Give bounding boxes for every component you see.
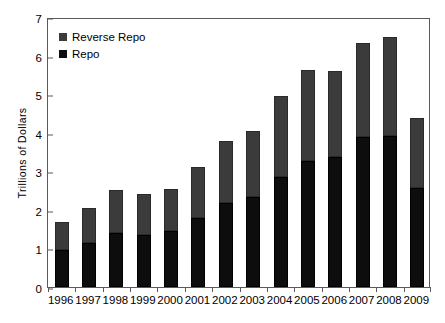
y-tick-label: 4 [36, 129, 42, 141]
bar-segment-reverse-repo [274, 96, 288, 176]
y-tick-label: 5 [36, 90, 42, 102]
bar-segment-repo [383, 136, 397, 287]
bar-segment-repo [55, 250, 69, 287]
x-tick-label: 2008 [376, 294, 402, 306]
x-tick-mark [48, 287, 49, 292]
bar-column [246, 131, 260, 287]
bar-column [219, 141, 233, 287]
x-tick-mark [322, 287, 323, 292]
bar-segment-reverse-repo [219, 141, 233, 203]
bar-segment-repo [301, 161, 315, 288]
bar-segment-repo [191, 218, 205, 287]
bar-segment-reverse-repo [137, 194, 151, 235]
x-tick-mark [103, 287, 104, 292]
legend-swatch-icon [59, 50, 67, 58]
x-tick-label: 2005 [294, 294, 320, 306]
bar-segment-reverse-repo [383, 37, 397, 136]
y-axis-title: Trillions of Dollars [14, 18, 30, 288]
bar-column [109, 190, 123, 287]
x-tick-label: 2002 [212, 294, 238, 306]
x-tick-mark [294, 287, 295, 292]
y-tick-mark [48, 134, 53, 135]
y-tick-mark [48, 211, 53, 212]
x-tick-label: 2001 [185, 294, 211, 306]
y-tick-label: 7 [36, 13, 42, 25]
x-tick-mark [185, 287, 186, 292]
bar-segment-reverse-repo [301, 70, 315, 161]
bar-segment-reverse-repo [356, 43, 370, 138]
bar-column [356, 43, 370, 287]
x-tick-label: 1999 [130, 294, 156, 306]
bar-column [82, 208, 96, 287]
bar-segment-repo [356, 137, 370, 287]
chart-legend: Reverse RepoRepo [59, 29, 146, 63]
bar-column [410, 118, 424, 287]
bar-segment-repo [109, 233, 123, 287]
legend-item: Repo [59, 46, 146, 61]
bar-column [274, 96, 288, 287]
bar-column [55, 222, 69, 287]
x-tick-mark [349, 287, 350, 292]
x-tick-mark [240, 287, 241, 292]
bar-segment-reverse-repo [82, 208, 96, 242]
legend-swatch-icon [59, 33, 67, 41]
y-tick-label: 6 [36, 52, 42, 64]
legend-item: Reverse Repo [59, 29, 146, 44]
x-tick-mark [267, 287, 268, 292]
y-tick-mark [48, 173, 53, 174]
y-tick-label: 1 [36, 244, 42, 256]
bar-segment-repo [274, 177, 288, 287]
bar-column [383, 37, 397, 287]
x-tick-mark [75, 287, 76, 292]
y-tick-label: 0 [36, 283, 42, 295]
x-tick-label: 1996 [48, 294, 74, 306]
y-tick-label: 3 [36, 167, 42, 179]
x-tick-label: 2003 [239, 294, 265, 306]
bar-segment-repo [82, 243, 96, 287]
bar-segment-reverse-repo [328, 71, 342, 157]
x-tick-mark [157, 287, 158, 292]
y-tick-mark [48, 57, 53, 58]
x-tick-label: 2007 [349, 294, 375, 306]
y-tick-label: 2 [36, 206, 42, 218]
bar-column [301, 70, 315, 287]
bar-segment-reverse-repo [55, 222, 69, 249]
bar-column [328, 71, 342, 287]
chart-figure: Trillions of Dollars 01234567 1996199719… [0, 0, 445, 323]
bar-segment-reverse-repo [164, 189, 178, 231]
bar-column [164, 189, 178, 287]
y-tick-mark [48, 250, 53, 251]
bar-segment-reverse-repo [191, 167, 205, 218]
bar-segment-repo [246, 197, 260, 287]
x-tick-label: 1998 [103, 294, 129, 306]
y-tick-mark [48, 19, 53, 20]
bar-segment-repo [137, 235, 151, 287]
bar-segment-repo [410, 188, 424, 287]
x-tick-label: 2006 [321, 294, 347, 306]
x-tick-label: 2009 [404, 294, 430, 306]
bar-column [137, 194, 151, 287]
x-tick-mark [212, 287, 213, 292]
bar-segment-reverse-repo [246, 131, 260, 197]
bar-segment-repo [219, 203, 233, 287]
bar-segment-reverse-repo [410, 118, 424, 188]
x-tick-label: 1997 [75, 294, 101, 306]
y-tick-mark [48, 96, 53, 97]
x-tick-label: 2000 [157, 294, 183, 306]
x-tick-mark [130, 287, 131, 292]
bar-segment-repo [328, 157, 342, 287]
bar-column [191, 167, 205, 287]
x-tick-label: 2004 [267, 294, 293, 306]
x-tick-mark [430, 287, 431, 292]
x-tick-mark [404, 287, 405, 292]
legend-label: Reverse Repo [72, 31, 146, 43]
bar-segment-reverse-repo [109, 190, 123, 233]
legend-label: Repo [72, 48, 100, 60]
bar-segment-repo [164, 231, 178, 287]
x-tick-mark [376, 287, 377, 292]
